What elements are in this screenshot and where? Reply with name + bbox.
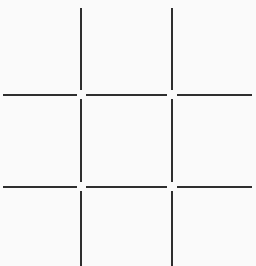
cell-r0-c0[interactable]	[0, 0, 79, 93]
grid-line-horizontal-1-middle	[86, 94, 167, 96]
cell-r2-c2[interactable]	[174, 189, 256, 266]
grid-line-horizontal-1-right	[177, 94, 252, 96]
grid-line-horizontal-2-left	[3, 186, 77, 188]
grid-line-vertical-1-top	[80, 8, 82, 90]
cell-r0-c2[interactable]	[174, 0, 256, 93]
cell-r2-c0[interactable]	[0, 189, 79, 266]
cell-r1-c0[interactable]	[0, 97, 79, 185]
tic-tac-toe-board	[0, 0, 256, 266]
cell-r1-c2[interactable]	[174, 97, 256, 185]
grid-line-vertical-2-middle	[171, 99, 173, 182]
grid-line-horizontal-2-middle	[86, 186, 167, 188]
cell-r0-c1[interactable]	[83, 0, 170, 93]
cell-r2-c1[interactable]	[83, 189, 170, 266]
cell-r1-c1[interactable]	[83, 97, 170, 185]
grid-line-vertical-1-bottom	[80, 191, 82, 266]
grid-line-horizontal-2-right	[177, 186, 252, 188]
grid-line-vertical-1-middle	[80, 99, 82, 182]
grid-line-horizontal-1-left	[3, 94, 77, 96]
grid-line-vertical-2-bottom	[171, 191, 173, 266]
grid-line-vertical-2-top	[171, 8, 173, 90]
